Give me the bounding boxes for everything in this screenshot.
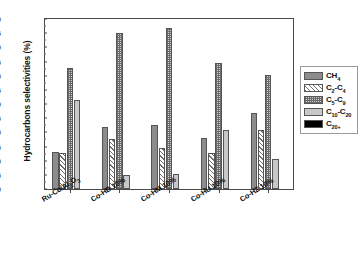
legend-swatch-icon [304, 84, 323, 92]
bar [166, 28, 173, 190]
y-tick-label: 60 [0, 16, 1, 23]
legend-swatch-icon [304, 96, 323, 104]
legend-item: C10-C20 [304, 106, 355, 118]
bar [67, 68, 74, 189]
y-tick-label: 10 [0, 157, 1, 164]
y-tick-label: 40 [0, 72, 1, 79]
bar [116, 33, 123, 189]
legend-item: CH4 [304, 70, 355, 82]
legend-label: CH4 [326, 71, 340, 82]
y-tick-label: 45 [0, 58, 1, 65]
y-tick-label: 25 [0, 115, 1, 122]
plot-right-border [293, 18, 294, 190]
bar [201, 138, 208, 189]
legend-swatch-icon [304, 72, 323, 80]
bar [265, 75, 272, 189]
legend-item: C5-C9 [304, 94, 355, 106]
legend-swatch-icon [304, 120, 323, 128]
bar [215, 63, 222, 189]
y-tick-label: 30 [0, 101, 1, 108]
bar-series-layer [45, 19, 293, 189]
bar [151, 125, 158, 189]
legend-label: C2-C4 [326, 83, 345, 94]
legend-item: C20+ [304, 118, 355, 130]
x-tick-mark [119, 190, 120, 193]
y-tick-label: 50 [0, 44, 1, 51]
x-tick-mark [70, 190, 71, 193]
x-tick-mark [268, 190, 269, 193]
x-tick-mark [169, 190, 170, 193]
y-tick-label: 35 [0, 86, 1, 93]
bar [102, 127, 109, 189]
chart-legend: CH4C2-C4C5-C9C10-C20C20+ [300, 66, 358, 134]
y-tick-label: 15 [0, 143, 1, 150]
chart-canvas: Hydrocarbons selectivities (%) 051015202… [0, 0, 362, 259]
y-tick-label: 55 [0, 30, 1, 37]
legend-label: C10-C20 [326, 107, 351, 118]
y-tick-label: 0 [0, 186, 1, 193]
legend-item: C2-C4 [304, 82, 355, 94]
legend-label: C5-C9 [326, 95, 345, 106]
legend-label: C20+ [326, 119, 340, 130]
x-tick-mark [219, 190, 220, 193]
y-tick-label: 5 [0, 171, 1, 178]
y-axis-title: Hydrocarbons selectivities (%) [22, 26, 32, 176]
y-tick-label: 20 [0, 129, 1, 136]
bar [251, 113, 258, 190]
legend-swatch-icon [304, 108, 323, 116]
